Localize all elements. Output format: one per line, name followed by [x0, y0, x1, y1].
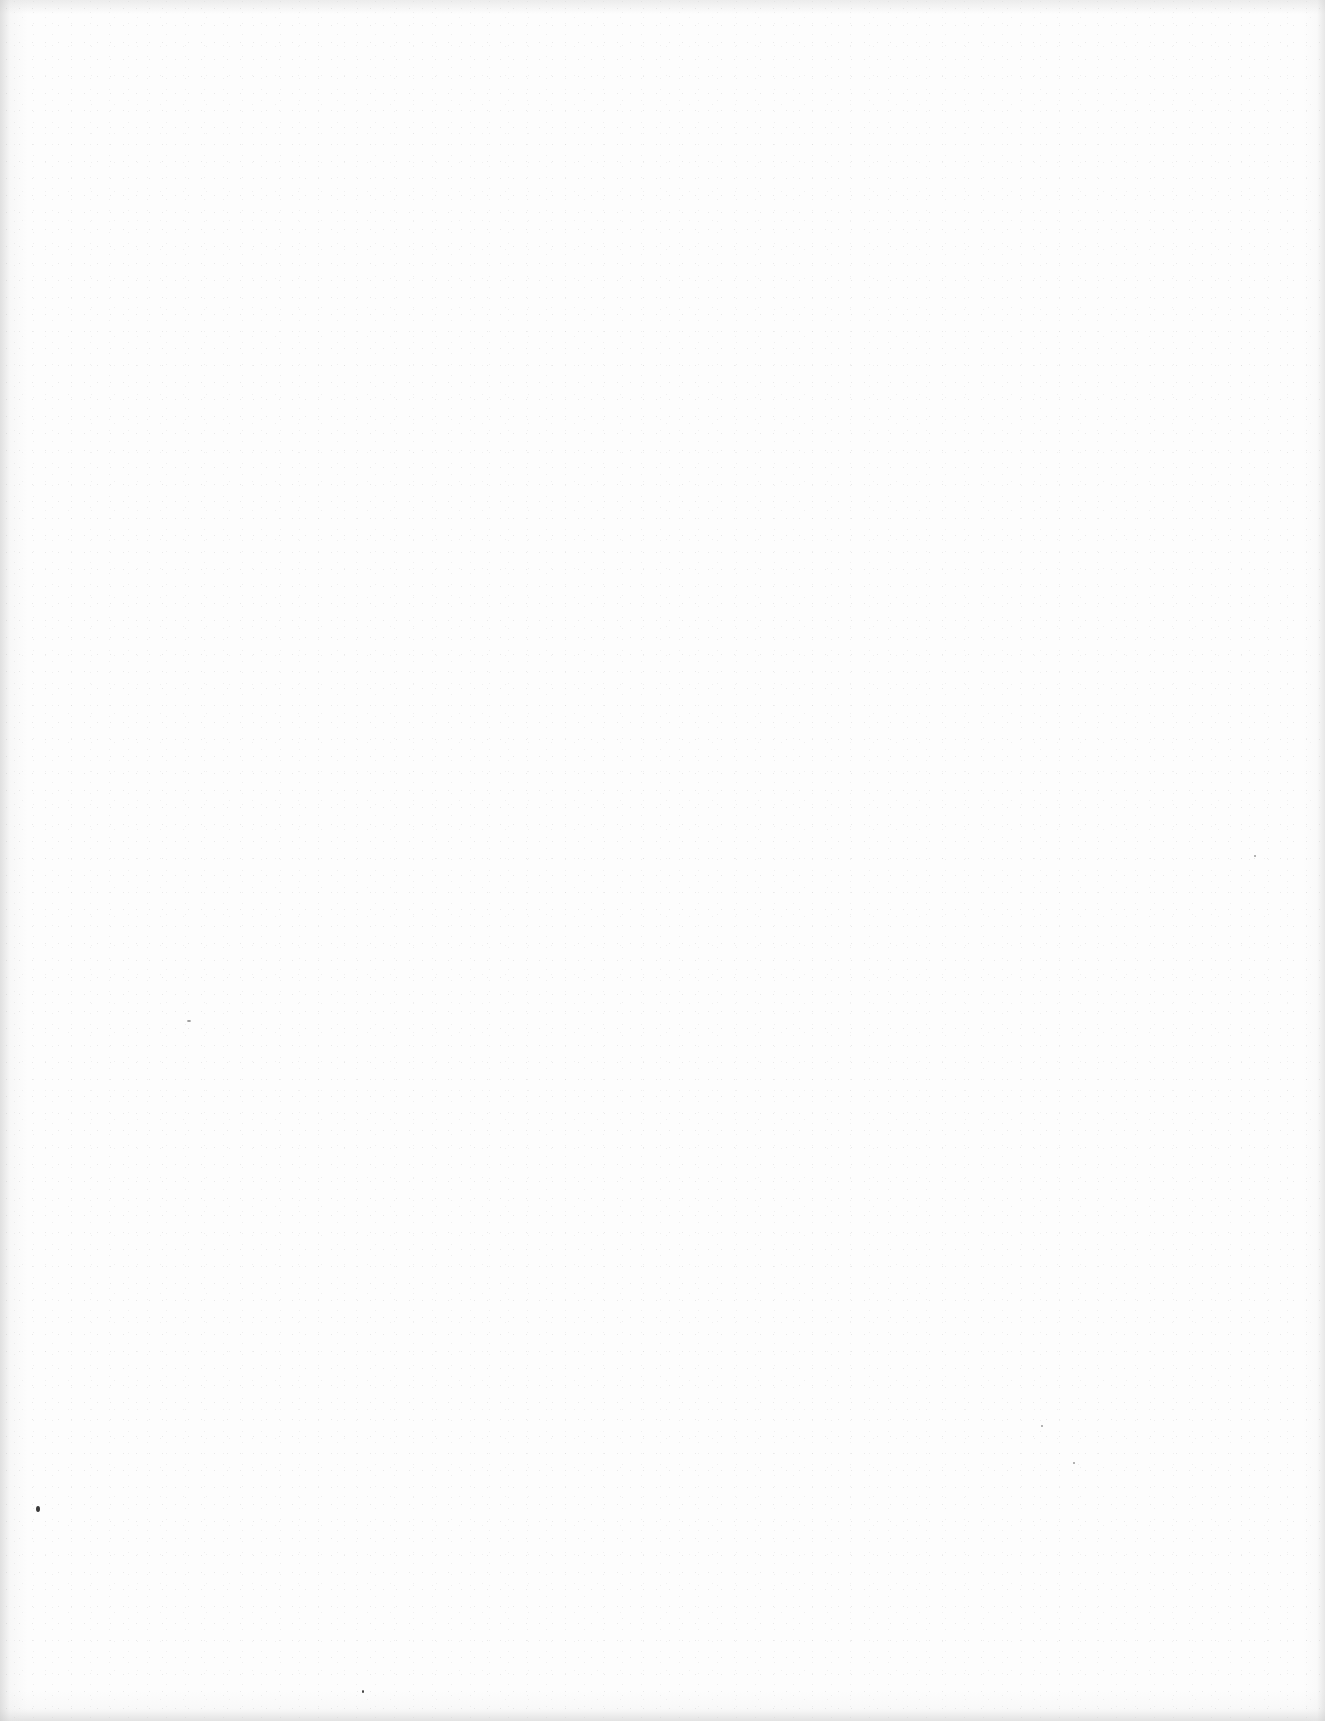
dust-speck [362, 1690, 364, 1693]
dust-speck [36, 1506, 40, 1512]
dust-speck [1041, 1425, 1043, 1427]
dust-speck [1073, 1462, 1075, 1464]
paper-grain-texture [0, 0, 1325, 1721]
dust-speck [187, 1020, 191, 1022]
dust-speck [1254, 855, 1256, 857]
blank-scanned-page [0, 0, 1325, 1721]
